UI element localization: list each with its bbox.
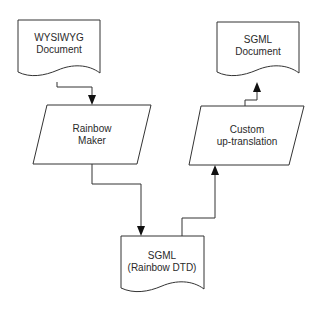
label-line-2: up-translation [217,136,278,148]
label-line-2: Maker [73,135,112,147]
arrowhead-up-icon [253,82,261,92]
arrowhead-down-icon [88,95,96,105]
label-line-2: (Rainbow DTD) [128,262,197,274]
sgml-document-label: SGML Document [235,34,281,58]
edge-wysiwyg-to-rainbow-maker [57,82,92,96]
edge-rainbow-maker-to-sgml-rainbow [92,164,141,227]
sgml-rainbow-document-label: SGML (Rainbow DTD) [128,250,197,274]
custom-up-translation-label: Custom up-translation [217,124,278,148]
label-line-1: Rainbow [73,123,112,135]
rainbow-maker-label: Rainbow Maker [73,123,112,147]
wysiwyg-document-label: WYSIWYG Document [34,32,83,56]
arrowhead-down-icon [137,226,145,236]
label-line-1: WYSIWYG [34,32,83,44]
edge-sgml-rainbow-to-custom [182,174,215,236]
label-line-1: SGML [235,34,281,46]
edge-custom-to-sgml-document [245,91,257,106]
label-line-1: Custom [217,124,278,136]
arrowhead-up-icon [211,165,219,175]
label-line-2: Document [235,46,281,58]
label-line-1: SGML [128,250,197,262]
label-line-2: Document [34,44,83,56]
